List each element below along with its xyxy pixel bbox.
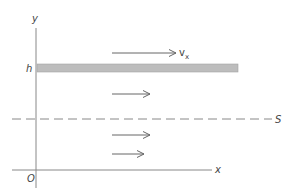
- y-axis-label: y: [31, 13, 39, 24]
- plane-s-label: S: [275, 114, 282, 125]
- moving-plate: [37, 64, 238, 72]
- origin-label: O: [27, 173, 35, 184]
- x-axis-label: x: [214, 164, 221, 175]
- velocity-label: vx: [179, 47, 189, 61]
- fluid-flow-diagram: y x O h vx S: [0, 0, 294, 193]
- plate-height-label: h: [26, 63, 32, 74]
